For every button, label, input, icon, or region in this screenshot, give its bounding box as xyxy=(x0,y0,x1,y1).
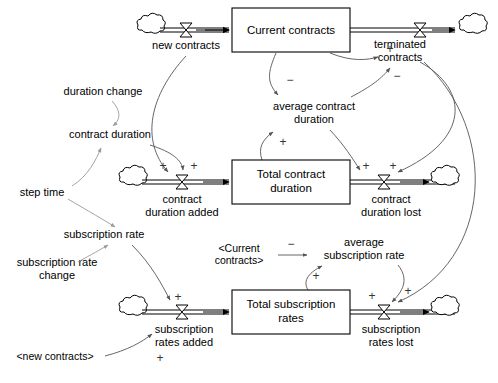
flow-label-contract-duration-lost-line1: contract xyxy=(371,193,410,205)
flow-label-subscription-rates-lost-line1: subscription xyxy=(362,323,421,335)
aux-label-average-subscription-rate-line2: subscription rate xyxy=(324,249,405,261)
polarity-tsr-to-asr: + xyxy=(312,269,319,283)
polarity-current-contracts-to-acd: − xyxy=(286,73,293,87)
polarity-new-contracts-to-cda: + xyxy=(159,159,166,173)
polarity-terminated-to-cdl: + xyxy=(389,159,396,173)
aux-label-contract-duration: contract duration xyxy=(69,128,151,140)
link-duration-change-to-contract-duration xyxy=(112,101,119,126)
valve-new-contracts[interactable] xyxy=(180,23,192,37)
aux-label-step-time: step time xyxy=(20,186,65,198)
flow-label-terminated-contracts-line2: contracts xyxy=(378,51,423,63)
polarity-terminated-to-srl: + xyxy=(368,289,375,303)
link-terminated-contracts-to-contract-duration-lost xyxy=(398,62,455,172)
link-new-contracts-to-contract-duration-added xyxy=(152,56,186,172)
valve-contract-duration-added[interactable] xyxy=(176,175,188,189)
shadow-label-current-contracts-line2: contracts> xyxy=(215,254,264,266)
aux-label-average-contract-duration-line1: average contract xyxy=(273,100,355,112)
stock-label-total-contract-duration-line1: Total contract xyxy=(257,168,326,180)
link-current-contracts-to-terminated-contracts xyxy=(330,53,378,60)
polarity-sr-to-sra: + xyxy=(174,290,181,304)
shadow-label-new-contracts: <new contracts> xyxy=(16,350,93,362)
valve-terminated-contracts[interactable] xyxy=(414,23,426,37)
aux-label-subscription-rate: subscription rate xyxy=(64,228,145,240)
polarity-tcd-to-acd: + xyxy=(279,135,286,149)
aux-label-average-contract-duration-line2: duration xyxy=(294,113,334,125)
stock-label-current-contracts: Current contracts xyxy=(247,24,335,36)
stock-label-total-contract-duration-line2: duration xyxy=(270,182,312,194)
valve-contract-duration-lost[interactable] xyxy=(378,175,390,189)
flow-label-subscription-rates-added-line2: rates added xyxy=(155,336,213,348)
cloud-source-contract-duration-added xyxy=(119,165,147,185)
polarity-current-contracts-to-terminated: + xyxy=(386,42,393,56)
flow-label-subscription-rates-lost-line2: rates lost xyxy=(369,336,414,348)
valve-subscription-rates-added[interactable] xyxy=(176,305,188,319)
link-average-contract-duration-to-terminated-contracts xyxy=(351,68,390,97)
flow-label-contract-duration-added-line1: contract xyxy=(162,193,201,205)
link-subscription-rate-to-subscription-rates-added xyxy=(132,245,170,300)
stock-label-total-subscription-rates-line1: Total subscription xyxy=(247,298,336,310)
diagram-canvas: new contracts Current contracts terminat… xyxy=(0,0,498,383)
valve-subscription-rates-lost[interactable] xyxy=(378,305,390,319)
link-total-contract-duration-to-average-contract-duration xyxy=(260,132,273,160)
cloud-sink-contract-duration-lost xyxy=(431,165,459,185)
stock-label-total-subscription-rates-line2: rates xyxy=(278,312,304,324)
aux-label-subscription-rate-change-line2: change xyxy=(39,269,75,281)
cloud-source-subscription-rates-added xyxy=(119,295,147,315)
flow-label-contract-duration-added-line2: duration added xyxy=(145,206,218,218)
link-step-time-to-subscription-rate xyxy=(68,199,115,227)
flow-label-terminated-contracts-line1: terminated xyxy=(374,38,426,50)
polarity-shadow-nc-to-sra: + xyxy=(156,351,163,365)
cloud-sink-subscription-rates-lost xyxy=(431,295,459,315)
polarity-acd-to-terminated: − xyxy=(393,69,400,83)
aux-label-average-subscription-rate-line1: average xyxy=(344,236,384,248)
aux-label-duration-change: duration change xyxy=(64,85,143,97)
link-step-time-to-contract-duration xyxy=(72,148,101,186)
flow-label-subscription-rates-added-line1: subscription xyxy=(155,323,214,335)
polarity-acd-to-cdl: + xyxy=(362,159,369,173)
flow-label-contract-duration-lost-line2: duration lost xyxy=(361,206,421,218)
cloud-sink-terminated-contracts xyxy=(459,13,487,33)
link-current-contracts-to-average-contract-duration xyxy=(270,53,279,95)
polarity-contract-duration-to-cda: + xyxy=(190,159,197,173)
shadow-label-current-contracts-line1: <Current xyxy=(218,242,259,254)
link-average-subscription-rate-to-subscription-rates-lost xyxy=(392,265,404,302)
flow-label-new-contracts: new contracts xyxy=(152,39,220,51)
polarity-shadow-cc-to-asr: − xyxy=(287,237,294,251)
stock-flow-diagram: new contracts Current contracts terminat… xyxy=(0,0,498,383)
link-shadow-new-contracts-to-subscription-rates-added xyxy=(105,334,152,356)
cloud-source-new-contracts xyxy=(137,13,165,33)
